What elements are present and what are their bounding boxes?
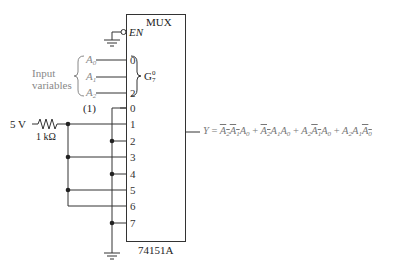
data-pin-2: 2	[130, 136, 136, 147]
select-label-a2: A2	[86, 87, 96, 98]
input-variables-label-line2: variables	[32, 80, 72, 91]
group-label: G07	[144, 70, 155, 84]
select-pin-2: 2	[130, 88, 136, 99]
data-pin-4: 4	[130, 169, 136, 180]
part-number: 74151A	[138, 245, 173, 256]
enable-bubble	[121, 30, 126, 35]
data-pin-0: 0	[130, 103, 136, 114]
input-variables-label-line1: Input	[32, 68, 55, 79]
data-pin-7: 7	[130, 218, 136, 229]
annotation-label: (1)	[83, 103, 96, 114]
resistor	[38, 119, 57, 129]
data-pin-3: 3	[130, 152, 136, 163]
data-pin-5: 5	[130, 185, 136, 196]
select-pin-0: 0	[130, 55, 136, 66]
source-voltage: 5 V	[10, 119, 26, 130]
data-pin-1: 1	[130, 119, 136, 130]
mux-title: MUX	[146, 17, 172, 28]
data-pin-6: 6	[130, 201, 136, 212]
resistor-value: 1 kΩ	[36, 132, 56, 142]
select-label-a1: A1	[86, 71, 96, 82]
output-equation: Y = A2A1A0 + A2A1A0 + A2A1A0 + A2A1A0	[203, 126, 372, 137]
enable-label: EN	[129, 27, 143, 38]
select-label-a0: A0	[86, 54, 96, 65]
